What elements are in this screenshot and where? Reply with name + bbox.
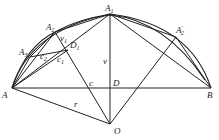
line-A2p-O bbox=[110, 37, 176, 124]
label-A2-prime: A′2 bbox=[175, 25, 184, 36]
label-r: r bbox=[74, 99, 78, 109]
label-c2: c2 bbox=[40, 51, 47, 62]
chord-A2p-B bbox=[176, 37, 211, 88]
label-A1: A1 bbox=[104, 3, 114, 14]
chord-A2-A1 bbox=[55, 14, 110, 32]
label-c: c bbox=[89, 78, 93, 88]
radius-A-O bbox=[12, 88, 110, 124]
label-A: A bbox=[1, 90, 8, 100]
label-v1: v1 bbox=[60, 33, 67, 44]
arc-bisection-diagram: A B A1 A2 A3 A′2 O D D1 c c1 c2 v v1 r bbox=[0, 0, 219, 140]
label-v: v bbox=[103, 56, 107, 66]
label-B: B bbox=[207, 90, 213, 100]
diagram-canvas: A B A1 A2 A3 A′2 O D D1 c c1 c2 v v1 r bbox=[0, 0, 219, 140]
chord-A1-B bbox=[110, 14, 211, 88]
label-O: O bbox=[114, 126, 121, 136]
label-A2: A2 bbox=[45, 22, 55, 33]
chord-A1-A2p bbox=[110, 14, 176, 37]
label-c1: c1 bbox=[57, 54, 64, 65]
label-D1: D1 bbox=[69, 40, 80, 51]
chord-A-A3 bbox=[12, 57, 30, 88]
label-D: D bbox=[112, 78, 120, 88]
label-A3: A3 bbox=[18, 47, 28, 58]
line-A2-O bbox=[55, 32, 110, 124]
